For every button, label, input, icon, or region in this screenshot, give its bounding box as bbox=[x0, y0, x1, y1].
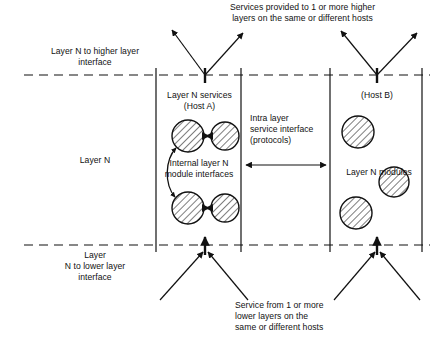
host-a-module-bottom-right bbox=[211, 194, 239, 222]
intra-layer-interface-label: Intra layer service interface (protocols… bbox=[250, 113, 332, 147]
layer-n-modules-label: Layer N modules bbox=[334, 167, 424, 178]
top-service-arrow-b-left bbox=[341, 31, 377, 75]
higher-layer-interface-label: Layer N to higher layer interface bbox=[30, 46, 160, 68]
host-b-module-upper bbox=[342, 116, 374, 148]
top-service-arrow-b-right bbox=[377, 33, 417, 75]
top-services-label: Services provided to 1 or more higher la… bbox=[195, 2, 410, 24]
host-b-title-label: (Host B) bbox=[336, 90, 418, 101]
host-a-module-top-left bbox=[172, 120, 204, 152]
internal-module-interfaces-label: Internal layer N module interfaces bbox=[154, 158, 244, 180]
top-service-arrow-a-right bbox=[205, 33, 243, 75]
bottom-service-arrow-b-right bbox=[380, 252, 420, 300]
host-a-title-label: Layer N services (Host A) bbox=[152, 90, 247, 112]
lower-layer-interface-label: Layer N to lower layer interface bbox=[30, 250, 160, 284]
bottom-service-label: Service from 1 or more lower layers on t… bbox=[235, 300, 365, 334]
top-service-arrow-a-left bbox=[172, 30, 205, 75]
layer-n-label: Layer N bbox=[45, 155, 145, 166]
bottom-service-arrow-a-left bbox=[160, 252, 203, 300]
diagram-canvas: Services provided to 1 or more higher la… bbox=[0, 0, 436, 341]
host-a-module-bottom-left bbox=[172, 192, 204, 224]
bottom-service-arrow-a-right bbox=[208, 252, 248, 300]
host-b-module-lower bbox=[340, 197, 372, 229]
bottom-service-arrow-b-left bbox=[334, 252, 375, 300]
host-a-module-top-right bbox=[211, 122, 239, 150]
